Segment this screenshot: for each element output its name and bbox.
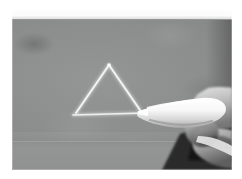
image-canvas — [0, 0, 242, 179]
hand-holding-chalk — [12, 10, 232, 170]
photograph — [12, 10, 232, 170]
